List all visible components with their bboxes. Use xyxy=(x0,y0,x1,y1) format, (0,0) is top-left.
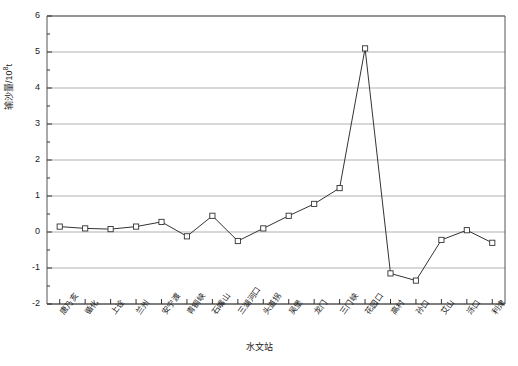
y-tick-label: 3 xyxy=(18,118,40,128)
data-point-marker xyxy=(490,240,495,245)
data-point-marker xyxy=(159,219,164,224)
y-tick-label: 4 xyxy=(18,82,40,92)
data-point-marker xyxy=(83,226,88,231)
chart-root: 输沙量/108t 水文站 -2-10123456 唐乃亥循化上诠兰州安宁渡青铜峡… xyxy=(0,0,518,366)
y-tick-label: 6 xyxy=(18,10,40,20)
data-point-marker xyxy=(337,185,342,190)
data-line xyxy=(60,48,493,280)
y-tick-label: 0 xyxy=(18,226,40,236)
y-tick-label: 5 xyxy=(18,46,40,56)
data-point-marker xyxy=(464,228,469,233)
y-tick-label: 1 xyxy=(18,190,40,200)
data-point-marker xyxy=(413,278,418,283)
y-tick-label: -2 xyxy=(18,298,40,308)
data-point-marker xyxy=(184,234,189,239)
data-point-marker xyxy=(312,201,317,206)
data-point-marker xyxy=(388,271,393,276)
data-point-marker xyxy=(439,237,444,242)
data-point-marker xyxy=(133,224,138,229)
data-point-marker xyxy=(362,46,367,51)
y-tick-label: 2 xyxy=(18,154,40,164)
data-point-marker xyxy=(108,227,113,232)
data-point-marker xyxy=(57,224,62,229)
y-tick-label: -1 xyxy=(18,262,40,272)
data-point-marker xyxy=(286,213,291,218)
data-point-marker xyxy=(235,238,240,243)
data-point-marker xyxy=(261,226,266,231)
data-point-marker xyxy=(210,213,215,218)
